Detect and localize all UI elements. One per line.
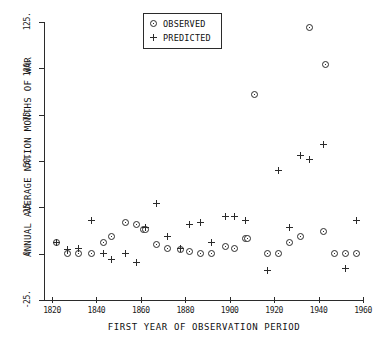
data-point-predicted [306, 156, 313, 163]
data-point-predicted [342, 265, 349, 272]
data-point-predicted [231, 213, 238, 220]
data-point-predicted [122, 250, 129, 257]
data-point-observed [264, 250, 271, 257]
data-point-observed [208, 250, 215, 257]
data-point-observed [320, 228, 327, 235]
x-tick [230, 297, 231, 303]
x-tick-label: 1960 [343, 306, 382, 315]
data-point-predicted [88, 217, 95, 224]
data-point-predicted [320, 141, 327, 148]
data-point-predicted [164, 233, 171, 240]
data-point-predicted [186, 221, 193, 228]
data-point-predicted [75, 245, 82, 252]
x-tick [141, 297, 142, 303]
data-point-predicted [177, 245, 184, 252]
data-point-observed [251, 91, 258, 98]
data-point-observed [222, 243, 229, 250]
x-axis-title: FIRST YEAR OF OBSERVATION PERIOD [44, 322, 364, 332]
data-point-predicted [353, 217, 360, 224]
data-point-predicted [197, 219, 204, 226]
data-point-observed [275, 250, 282, 257]
x-tick-label: 1880 [165, 306, 205, 315]
y-tick-label: 125. [14, 17, 40, 27]
y-axis-title: ANNUAL AVERAGE NATION MONTHS OF WAR [23, 37, 33, 277]
data-point-predicted [286, 224, 293, 231]
data-point-predicted [53, 239, 60, 246]
x-tick [52, 297, 53, 303]
x-tick [274, 297, 275, 303]
data-point-observed [231, 245, 238, 252]
legend-label-predicted: PREDICTED [163, 33, 211, 43]
observed-marker-icon [149, 18, 161, 30]
data-point-observed [244, 235, 251, 242]
data-point-observed [297, 233, 304, 240]
x-tick [363, 297, 364, 303]
x-tick-label: 1940 [299, 306, 339, 315]
data-point-predicted [222, 213, 229, 220]
data-point-observed [186, 248, 193, 255]
x-tick-label: 1840 [76, 306, 116, 315]
data-point-predicted [208, 239, 215, 246]
x-tick [96, 297, 97, 303]
data-point-observed [153, 241, 160, 248]
y-tick-label: -25. [14, 295, 40, 305]
data-point-observed [322, 61, 329, 68]
x-tick [185, 297, 186, 303]
data-point-predicted [242, 217, 249, 224]
x-tick-label: 1860 [121, 306, 161, 315]
data-point-predicted [153, 200, 160, 207]
data-point-observed [197, 250, 204, 257]
data-point-observed [88, 250, 95, 257]
data-point-observed [164, 245, 171, 252]
data-point-observed [306, 24, 313, 31]
data-point-predicted [64, 246, 71, 253]
data-point-predicted [264, 267, 271, 274]
chart-page: -25.025.50.75.100.125. 18201840186018801… [0, 0, 382, 344]
data-point-predicted [142, 224, 149, 231]
data-point-observed [100, 239, 107, 246]
chart-legend: OBSERVED PREDICTED [143, 13, 222, 49]
legend-entry-observed: OBSERVED [149, 17, 206, 31]
x-axis-line [44, 300, 364, 301]
predicted-marker-icon [149, 32, 161, 44]
data-point-observed [122, 219, 129, 226]
data-point-predicted [133, 259, 140, 266]
data-point-observed [108, 233, 115, 240]
x-tick-label: 1820 [32, 306, 72, 315]
x-tick [319, 297, 320, 303]
x-tick-label: 1900 [210, 306, 250, 315]
legend-entry-predicted: PREDICTED [149, 31, 211, 45]
data-point-predicted [297, 152, 304, 159]
data-point-observed [342, 250, 349, 257]
data-point-observed [286, 239, 293, 246]
scatter-plot-area: -25.025.50.75.100.125. 18201840186018801… [0, 0, 382, 344]
data-point-predicted [108, 256, 115, 263]
data-point-observed [331, 250, 338, 257]
data-point-observed [133, 221, 140, 228]
x-tick-label: 1920 [254, 306, 294, 315]
data-point-predicted [100, 250, 107, 257]
data-point-predicted [275, 167, 282, 174]
legend-label-observed: OBSERVED [163, 19, 206, 29]
data-point-observed [353, 250, 360, 257]
